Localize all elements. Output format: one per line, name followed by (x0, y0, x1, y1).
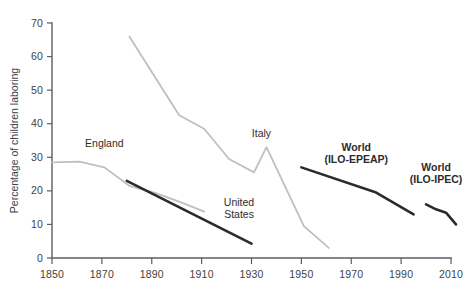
y-axis-title: Percentage of children laboring (8, 68, 20, 214)
series-line-world-ilo-ipec (426, 204, 456, 224)
series-line-world-ilo-epeap (301, 167, 413, 214)
series-label-united-states: UnitedStates (224, 196, 255, 221)
y-tick-label: 40 (31, 117, 43, 129)
y-tick-label: 10 (31, 218, 43, 230)
x-tick-label: 1930 (239, 268, 263, 280)
x-tick-label: 1870 (90, 268, 114, 280)
chart-container: 0102030405060701850187018901910193019501… (0, 0, 476, 300)
y-tick-label: 60 (31, 50, 43, 62)
line-chart: 0102030405060701850187018901910193019501… (0, 0, 476, 300)
y-tick-label: 20 (31, 184, 43, 196)
chart-series-labels: EnglandUnitedStatesItalyWorld(ILO-EPEAP)… (85, 127, 462, 220)
x-tick-label: 2010 (439, 268, 463, 280)
series-label-world-ilo-epeap: World(ILO-EPEAP) (324, 141, 388, 166)
series-label-world-ilo-ipec: World(ILO-IPEC) (410, 161, 463, 186)
x-tick-label: 1970 (339, 268, 363, 280)
series-line-england (52, 162, 204, 212)
x-tick-label: 1850 (40, 268, 64, 280)
y-tick-label: 30 (31, 151, 43, 163)
series-label-england: England (85, 137, 124, 149)
x-tick-label: 1890 (140, 268, 164, 280)
y-tick-label: 50 (31, 84, 43, 96)
x-tick-label: 1950 (289, 268, 313, 280)
y-tick-label: 0 (37, 252, 43, 264)
y-tick-label: 70 (31, 17, 43, 29)
x-tick-label: 1990 (389, 268, 413, 280)
y-axis-title-text: Percentage of children laboring (8, 68, 20, 214)
x-tick-label: 1910 (190, 268, 214, 280)
series-label-italy: Italy (252, 127, 272, 139)
